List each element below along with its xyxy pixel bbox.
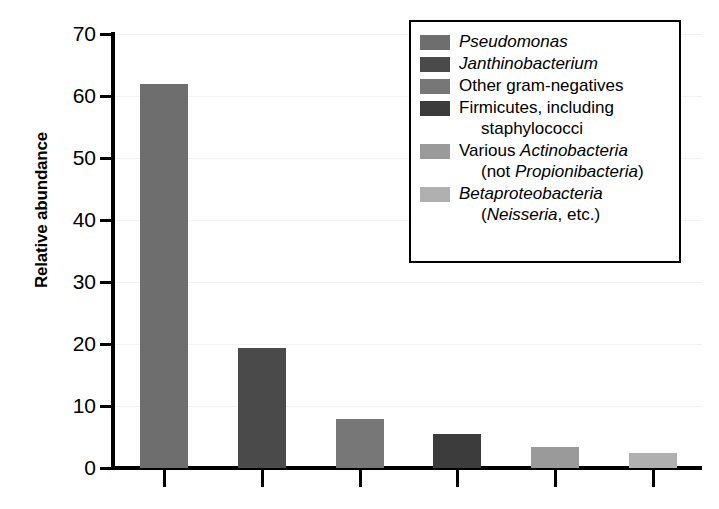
legend-label-line: Betaproteobacteria: [459, 183, 603, 204]
legend-label-line: Firmicutes, including: [459, 97, 614, 118]
x-tick-mark: [163, 470, 166, 487]
y-axis-title: Relative abundance: [32, 110, 52, 310]
x-tick-mark: [554, 470, 557, 487]
x-tick-mark: [652, 470, 655, 487]
y-tick-label: 30: [50, 271, 96, 292]
y-tick-mark: [100, 219, 111, 222]
y-tick-mark: [100, 157, 111, 160]
y-tick-label: 40: [50, 209, 96, 230]
legend-item: Other gram-negatives: [420, 75, 673, 96]
y-tick-mark: [100, 467, 111, 470]
y-tick-label: 60: [50, 85, 96, 106]
x-tick-mark: [359, 470, 362, 487]
bar: [238, 348, 286, 468]
legend-label: Pseudomonas: [459, 31, 568, 52]
y-tick-label: 70: [50, 23, 96, 44]
x-tick-mark: [261, 470, 264, 487]
legend-swatch: [420, 101, 450, 116]
legend-label-line: Janthinobacterium: [459, 53, 598, 74]
legend-swatch: [420, 187, 450, 202]
y-tick-mark: [100, 95, 111, 98]
legend-label-italic: Neisseria: [487, 205, 558, 224]
legend: PseudomonasJanthinobacteriumOther gram-n…: [409, 20, 681, 263]
legend-label: Firmicutes, includingstaphylococci: [459, 97, 614, 139]
bar-chart: Relative abundance 706050403020100 Pseud…: [0, 0, 719, 509]
legend-item: Various Actinobacteria(not Propionibacte…: [420, 140, 673, 182]
legend-label-line: (Neisseria, etc.): [459, 204, 603, 225]
legend-item: Firmicutes, includingstaphylococci: [420, 97, 673, 139]
legend-swatch: [420, 35, 450, 50]
y-tick-label: 50: [50, 147, 96, 168]
legend-label-italic: Betaproteobacteria: [459, 184, 603, 203]
y-tick-mark: [100, 281, 111, 284]
legend-label-italic: Pseudomonas: [459, 32, 568, 51]
legend-item: Betaproteobacteria(Neisseria, etc.): [420, 183, 673, 225]
legend-swatch: [420, 57, 450, 72]
legend-label-italic: Janthinobacterium: [459, 54, 598, 73]
y-tick-label-wrap: 0: [38, 468, 96, 469]
bar: [140, 84, 188, 468]
legend-label-line: Pseudomonas: [459, 31, 568, 52]
y-tick-label-wrap: 30: [38, 282, 96, 283]
legend-swatch: [420, 79, 450, 94]
y-tick-mark: [100, 405, 111, 408]
legend-item: Pseudomonas: [420, 31, 673, 52]
bar: [336, 419, 384, 468]
bar: [433, 434, 481, 468]
legend-label-line: staphylococci: [459, 118, 614, 139]
y-tick-label-wrap: 40: [38, 220, 96, 221]
legend-label-line: (not Propionibacteria): [459, 161, 644, 182]
legend-label-italic: Actinobacteria: [520, 141, 628, 160]
y-tick-label-wrap: 20: [38, 344, 96, 345]
y-tick-label-wrap: 60: [38, 96, 96, 97]
y-tick-label-wrap: 70: [38, 34, 96, 35]
legend-swatch: [420, 144, 450, 159]
y-tick-mark: [100, 33, 111, 36]
legend-item: Janthinobacterium: [420, 53, 673, 74]
y-tick-label: 20: [50, 333, 96, 354]
legend-label-italic: Propionibacteria: [515, 162, 638, 181]
legend-label: Various Actinobacteria(not Propionibacte…: [459, 140, 644, 182]
legend-label: Other gram-negatives: [459, 75, 623, 96]
legend-label: Janthinobacterium: [459, 53, 598, 74]
bar: [629, 453, 677, 468]
legend-label-line: Various Actinobacteria: [459, 140, 644, 161]
legend-label-line: Other gram-negatives: [459, 75, 623, 96]
y-tick-label-wrap: 50: [38, 158, 96, 159]
x-tick-mark: [456, 470, 459, 487]
y-tick-label-wrap: 10: [38, 406, 96, 407]
y-tick-label: 10: [50, 395, 96, 416]
y-tick-mark: [100, 343, 111, 346]
y-tick-label: 0: [50, 457, 96, 478]
legend-label: Betaproteobacteria(Neisseria, etc.): [459, 183, 603, 225]
bar: [531, 447, 579, 468]
